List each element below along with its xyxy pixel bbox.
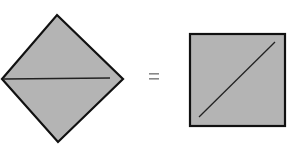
diagram-canvas: = bbox=[0, 0, 291, 148]
diamond-shape bbox=[2, 15, 123, 142]
square-shape bbox=[190, 34, 285, 126]
equals-sign bbox=[149, 73, 159, 80]
